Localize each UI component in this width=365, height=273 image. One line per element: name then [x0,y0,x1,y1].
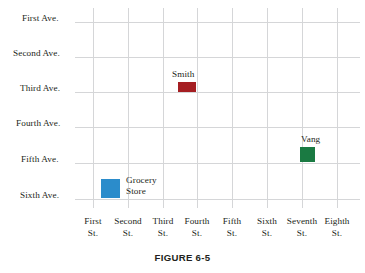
data-point-label-smith: Smith [172,69,194,80]
x-tick-eighth-st-line-1: Eighth [314,216,360,228]
plot-area: Smith Vang Grocery Store [75,8,360,208]
x-tick-eighth-st-line-2: St. [314,228,360,240]
grocery-store-label-line-1: Grocery [126,175,170,186]
data-point-smith[interactable] [178,82,196,92]
gridline-vertical-fourth-st [197,8,198,208]
x-axis-tick-eighth-st: Eighth St. [314,216,360,239]
gridline-horizontal-third-ave [75,92,360,93]
y-axis-tick-second-ave: Second Ave. [13,48,85,58]
gridline-horizontal-second-ave [75,57,360,58]
y-axis-tick-fifth-ave: Fifth Ave. [21,154,93,164]
gridline-vertical-eighth-st [337,8,338,208]
gridline-horizontal-fifth-ave [75,163,360,164]
data-point-vang[interactable] [300,147,315,162]
gridline-horizontal-first-ave [75,22,360,23]
gridline-vertical-first-st [93,8,94,208]
data-point-label-vang: Vang [301,134,320,145]
gridline-vertical-sixth-st [267,8,268,208]
gridline-horizontal-fourth-ave [75,127,360,128]
data-point-label-grocery-store: Grocery Store [126,175,170,197]
gridline-vertical-seventh-st [302,8,303,208]
figure-caption: FIGURE 6-5 [0,252,365,263]
data-point-grocery-store[interactable] [101,179,120,198]
grocery-store-label-line-2: Store [126,186,170,197]
figure-6-5: Smith Vang Grocery Store First Ave. Seco… [0,0,365,273]
y-axis-tick-sixth-ave: Sixth Ave. [20,190,92,200]
y-axis-tick-first-ave: First Ave. [22,13,94,23]
gridline-horizontal-sixth-ave [75,199,360,200]
y-axis-tick-third-ave: Third Ave. [20,83,92,93]
y-axis-tick-fourth-ave: Fourth Ave. [16,118,88,128]
gridline-vertical-fifth-st [232,8,233,208]
